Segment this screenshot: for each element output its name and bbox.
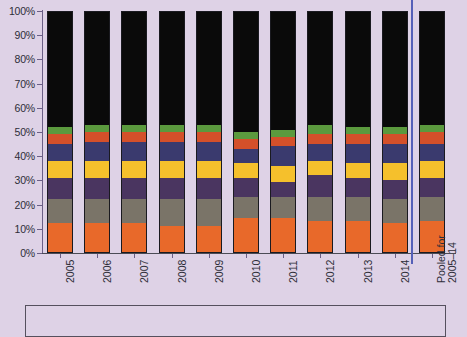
bar-segment bbox=[271, 218, 295, 252]
bar-segment bbox=[308, 221, 332, 252]
bar-segment bbox=[234, 178, 258, 197]
bar-segment bbox=[48, 223, 72, 252]
y-axis-tick-label: 40% bbox=[15, 150, 35, 162]
bar-segment bbox=[308, 161, 332, 175]
y-axis-tick-label: 10% bbox=[15, 223, 35, 235]
bar-segment bbox=[420, 132, 444, 144]
bar-segment bbox=[160, 226, 184, 252]
x-axis-tick-mark bbox=[172, 254, 173, 258]
bar-segment bbox=[85, 223, 109, 252]
bar-segment bbox=[197, 142, 221, 161]
stacked-bar[interactable] bbox=[419, 11, 445, 253]
bar-segment bbox=[48, 199, 72, 223]
bar-segment bbox=[383, 134, 407, 144]
bar-segment bbox=[85, 161, 109, 178]
y-axis-tick-label: 90% bbox=[15, 29, 35, 41]
x-axis-tick-label: 2014 bbox=[399, 257, 411, 283]
bar-segment bbox=[48, 134, 72, 144]
bar-segment bbox=[48, 178, 72, 200]
bar-segment bbox=[197, 12, 221, 125]
bar-segment bbox=[346, 197, 370, 221]
bar-segment bbox=[383, 163, 407, 180]
bar-segment bbox=[122, 142, 146, 161]
bar-segment bbox=[308, 197, 332, 221]
bar-segment bbox=[48, 161, 72, 178]
y-axis-tick-label: 80% bbox=[15, 53, 35, 65]
bar-segment bbox=[122, 125, 146, 132]
bar-segment bbox=[85, 12, 109, 125]
y-axis: 0%10%20%30%40%50%60%70%80%90%100% bbox=[0, 0, 42, 264]
bar-segment bbox=[160, 12, 184, 125]
bar-segment bbox=[48, 144, 72, 161]
bar-segment bbox=[420, 161, 444, 178]
bar-segment bbox=[383, 127, 407, 134]
bar-segment bbox=[346, 163, 370, 177]
stacked-bar[interactable] bbox=[47, 11, 73, 253]
bar-segment bbox=[308, 175, 332, 197]
x-axis-tick-mark bbox=[283, 254, 284, 258]
bar-segment bbox=[160, 199, 184, 225]
bar-segment bbox=[308, 144, 332, 161]
x-axis-tick-label: 2009 bbox=[213, 257, 225, 283]
bar-segment bbox=[160, 142, 184, 161]
bar-segment bbox=[85, 178, 109, 200]
x-axis-tick-label: 2012 bbox=[324, 257, 336, 283]
x-axis-tick-mark bbox=[395, 254, 396, 258]
bar-segment bbox=[122, 161, 146, 178]
bar-segment bbox=[197, 178, 221, 200]
bar-segment bbox=[234, 139, 258, 149]
stacked-bar[interactable] bbox=[345, 11, 371, 253]
bar-segment bbox=[383, 12, 407, 127]
bar-segment bbox=[420, 12, 444, 125]
stacked-bar[interactable] bbox=[84, 11, 110, 253]
x-axis-tick-label: 2010 bbox=[250, 257, 262, 283]
bar-segment bbox=[420, 144, 444, 161]
bar-segment bbox=[122, 12, 146, 125]
bar-segment bbox=[234, 197, 258, 219]
bar-segment bbox=[234, 218, 258, 252]
bar-segment bbox=[122, 199, 146, 223]
bar-segment bbox=[308, 125, 332, 135]
x-axis-tick-label: Pooled for2005–14 bbox=[436, 257, 458, 283]
x-axis-tick-label: 2008 bbox=[176, 257, 188, 283]
stacked-bar[interactable] bbox=[159, 11, 185, 253]
stacked-bar[interactable] bbox=[233, 11, 259, 253]
x-axis-tick-label: 2011 bbox=[287, 257, 299, 283]
x-axis-tick-mark bbox=[97, 254, 98, 258]
bar-segment bbox=[308, 12, 332, 125]
plot-area bbox=[43, 11, 456, 253]
bar-segment bbox=[308, 134, 332, 144]
bar-segment bbox=[383, 180, 407, 199]
bar-segment bbox=[197, 125, 221, 132]
bar-segment bbox=[383, 144, 407, 163]
bar-segment bbox=[48, 127, 72, 134]
bar-segment bbox=[197, 199, 221, 225]
bar-segment bbox=[197, 226, 221, 252]
bar-segment bbox=[420, 178, 444, 197]
bar-segment bbox=[85, 199, 109, 223]
x-axis-tick-mark bbox=[320, 254, 321, 258]
bar-segment bbox=[383, 199, 407, 223]
stacked-bar[interactable] bbox=[382, 11, 408, 253]
bar-segment bbox=[234, 149, 258, 163]
legend-box bbox=[25, 305, 446, 337]
stacked-bar[interactable] bbox=[121, 11, 147, 253]
bar-segment bbox=[420, 197, 444, 221]
stacked-bar[interactable] bbox=[307, 11, 333, 253]
y-axis-tick-label: 70% bbox=[15, 78, 35, 90]
bar-segment bbox=[271, 12, 295, 130]
bar-segment bbox=[271, 130, 295, 137]
bar-segment bbox=[346, 134, 370, 144]
bar-segment bbox=[85, 142, 109, 161]
bar-segment bbox=[234, 163, 258, 177]
x-axis-tick-label: 2013 bbox=[362, 257, 374, 283]
bar-segment bbox=[160, 161, 184, 178]
stacked-bar[interactable] bbox=[196, 11, 222, 253]
x-axis-tick-label: 2006 bbox=[101, 257, 113, 283]
x-axis-tick-mark bbox=[358, 254, 359, 258]
stacked-bar[interactable] bbox=[270, 11, 296, 253]
bar-segment bbox=[234, 132, 258, 139]
bar-segment bbox=[346, 144, 370, 163]
x-axis-tick-label: 2005 bbox=[64, 257, 76, 283]
y-axis-tick-label: 20% bbox=[15, 199, 35, 211]
